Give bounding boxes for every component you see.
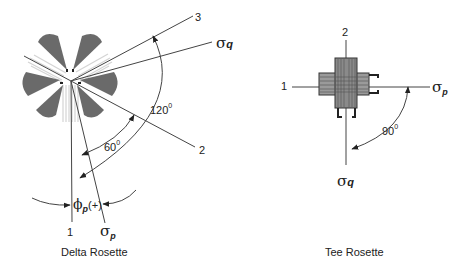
delta-gauge-pads [22, 34, 117, 118]
delta-sigma-q-label: σq [216, 34, 233, 52]
arc-phi-right [103, 190, 136, 204]
angle-120-label: 1200 [150, 102, 172, 116]
tee-axis-1-label: 1 [281, 80, 287, 92]
arc-phi-left [32, 198, 70, 205]
tee-sigma-p-label: σp [432, 78, 448, 97]
delta-axis-1-label: 1 [67, 226, 73, 238]
tee-sigma-q-label: σq [337, 172, 354, 190]
tee-rosette-caption: Tee Rosette [325, 246, 384, 258]
delta-axis-3-label: 3 [195, 11, 201, 23]
angle-60-label: 600 [104, 139, 120, 153]
delta-rosette [22, 16, 212, 223]
angle-90-label: 900 [382, 123, 398, 137]
delta-sigma-p-label: σp [100, 222, 116, 241]
arc-90 [352, 87, 408, 149]
phi-p-label: ϕp(+) [73, 196, 102, 214]
tee-axis-2-label: 2 [342, 26, 348, 38]
tee-rosette [292, 40, 430, 165]
delta-rosette-caption: Delta Rosette [61, 246, 128, 258]
delta-axis-2-label: 2 [199, 144, 205, 156]
